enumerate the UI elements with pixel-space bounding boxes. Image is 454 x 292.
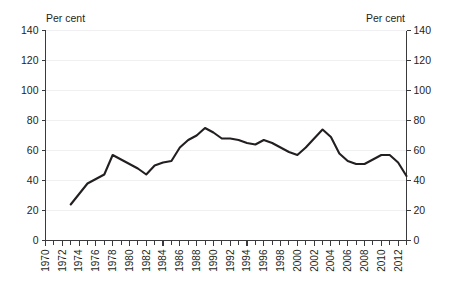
x-axis-tick-label: 1988	[191, 249, 202, 272]
x-axis-tick-label: 1990	[208, 249, 219, 272]
y-axis-left-tick-label: 140	[21, 24, 39, 36]
y-axis-left-tick-label: 60	[27, 144, 39, 156]
x-axis-tick-label: 1978	[107, 249, 118, 272]
y-axis-left-tick-label: 100	[21, 84, 39, 96]
y-axis-right-tick-label: 20	[414, 204, 426, 216]
grid-lines	[46, 31, 407, 211]
y-axis-right-tick-label: 100	[414, 84, 432, 96]
x-axis-tick-label: 1986	[174, 249, 185, 272]
left-axis-unit-label: Per cent	[46, 12, 85, 24]
x-axis-tick-label: 2006	[342, 249, 353, 272]
data-series-line	[71, 128, 407, 205]
x-axis-tick-label: 1994	[241, 249, 252, 272]
y-axis-left-tick-label: 20	[27, 204, 39, 216]
y-axis-left-tick-label: 0	[33, 234, 39, 246]
y-axis-left-tick-label: 120	[21, 54, 39, 66]
x-axis-tick-label: 1998	[275, 249, 286, 272]
x-axis-tick-label: 1972	[57, 249, 68, 272]
line-chart: 020406080100120140 020406080100120140 19…	[0, 0, 454, 292]
x-axis-tick-label: 1970	[40, 249, 51, 272]
x-axis-tick-label: 1984	[157, 249, 168, 272]
chart-container: 020406080100120140 020406080100120140 19…	[0, 0, 454, 292]
x-axis-tick-label: 2012	[393, 249, 404, 272]
x-axis-tick-label: 2002	[309, 249, 320, 272]
y-axis-right-tick-labels: 020406080100120140	[414, 24, 432, 246]
y-axis-left-tick-label: 80	[27, 114, 39, 126]
right-axis-unit-label: Per cent	[366, 12, 405, 24]
y-axis-right-tick-label: 80	[414, 114, 426, 126]
x-axis-tick-label: 1992	[225, 249, 236, 272]
y-axis-left-tick-label: 40	[27, 174, 39, 186]
y-axis-right-tick-label: 0	[414, 234, 420, 246]
x-axis-tick-label: 1982	[141, 249, 152, 272]
y-axis-right-tick-label: 60	[414, 144, 426, 156]
x-axis-tick-label: 1996	[258, 249, 269, 272]
x-axis-tick-label: 2008	[359, 249, 370, 272]
y-axis-left-tick-labels: 020406080100120140	[21, 24, 39, 246]
x-axis-tick-label: 2000	[292, 249, 303, 272]
y-axis-right-tick-label: 120	[414, 54, 432, 66]
x-axis-tick-label: 2004	[325, 249, 336, 272]
x-axis-tick-label: 1976	[90, 249, 101, 272]
x-axis-tick-label: 1974	[73, 249, 84, 272]
axis-spines	[46, 31, 407, 241]
x-axis-tick-label: 1980	[124, 249, 135, 272]
y-axis-right-tick-label: 140	[414, 24, 432, 36]
x-axis-tick-labels: 1970197219741976197819801982198419861988…	[40, 249, 404, 272]
y-axis-right-tick-label: 40	[414, 174, 426, 186]
x-axis-tick-label: 2010	[376, 249, 387, 272]
